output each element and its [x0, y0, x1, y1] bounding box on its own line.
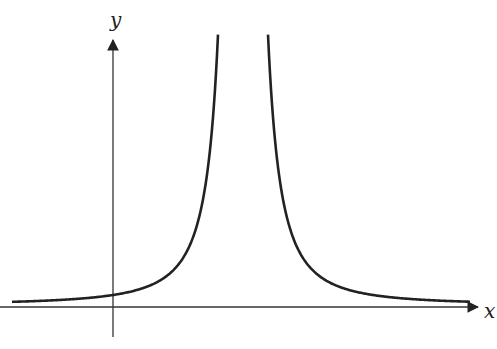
curve-left-branch [12, 35, 218, 302]
chart: y x [0, 0, 497, 349]
x-axis-label: x [484, 299, 495, 323]
curve-right-branch [268, 35, 470, 302]
y-axis-label: y [109, 8, 122, 32]
